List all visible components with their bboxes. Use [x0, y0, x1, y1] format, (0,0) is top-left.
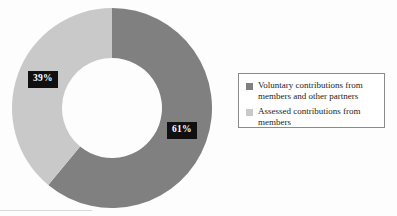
legend-item-assessed[interactable]: Assessed contributions from members — [246, 106, 378, 128]
legend-item-voluntary[interactable]: Voluntary contributions from members and… — [246, 80, 378, 102]
donut-chart-figure: 39% 61% Voluntary contributions from mem… — [0, 0, 397, 216]
data-label-voluntary: 61% — [167, 122, 197, 139]
donut-chart — [12, 8, 212, 208]
donut-chart-svg — [12, 8, 212, 208]
legend-swatch-icon-assessed — [246, 109, 253, 116]
legend-label-voluntary: Voluntary contributions from members and… — [258, 80, 378, 102]
data-label-assessed: 39% — [28, 71, 58, 88]
chart-legend: Voluntary contributions from members and… — [238, 73, 385, 128]
legend-swatch-icon-voluntary — [246, 83, 253, 90]
scan-artifact-line — [0, 210, 92, 211]
legend-label-assessed: Assessed contributions from members — [258, 106, 378, 128]
